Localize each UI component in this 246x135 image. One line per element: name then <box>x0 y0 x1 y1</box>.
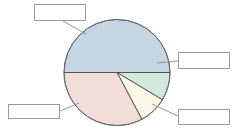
pie-slice-top-blue[interactable] <box>64 20 170 73</box>
leader-line-0 <box>63 21 86 34</box>
callout-label-bottom-left[interactable] <box>8 104 60 119</box>
pie-slices <box>64 20 170 126</box>
callout-label-right-upper[interactable] <box>178 52 230 69</box>
pie-chart-screenshot <box>0 0 246 135</box>
leader-line-3 <box>152 104 178 116</box>
callout-label-top-left[interactable] <box>34 4 86 21</box>
callout-label-bottom-right[interactable] <box>178 109 230 125</box>
